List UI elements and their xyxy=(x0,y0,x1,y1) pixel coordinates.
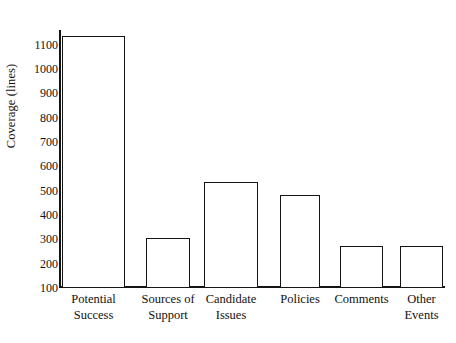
y-tick-label: 1100 xyxy=(22,39,58,51)
x-category-label-line: Events xyxy=(374,308,456,324)
bar xyxy=(340,246,383,287)
bar xyxy=(146,238,190,287)
y-tick-label: 1000 xyxy=(22,63,58,75)
y-tick-label: 700 xyxy=(22,136,58,148)
y-tick-label: 800 xyxy=(22,112,58,124)
plot-area xyxy=(60,30,450,288)
y-tick-label: 300 xyxy=(22,233,58,245)
bar-chart-figure: Coverage (lines) 10020030040050060070080… xyxy=(0,0,456,343)
y-tick-label: 200 xyxy=(22,258,58,270)
bar xyxy=(400,246,443,287)
y-tick-label: 400 xyxy=(22,209,58,221)
y-tick-label: 600 xyxy=(22,160,58,172)
bar xyxy=(204,182,258,287)
y-axis-line xyxy=(59,30,61,288)
y-tick-label: 900 xyxy=(22,87,58,99)
bar xyxy=(280,195,320,287)
y-axis-label: Coverage (lines) xyxy=(4,36,24,176)
y-tick-label: 500 xyxy=(22,185,58,197)
y-axis-tick-labels: 10020030040050060070080090010001100 xyxy=(22,30,58,288)
x-axis-category-labels: PotentialSuccessSources ofSupportCandida… xyxy=(60,292,456,338)
x-category-label-line: Other xyxy=(374,292,456,308)
bar xyxy=(62,36,125,287)
x-category-label: OtherEvents xyxy=(374,292,456,323)
x-category-label-line: Issues xyxy=(183,308,279,324)
